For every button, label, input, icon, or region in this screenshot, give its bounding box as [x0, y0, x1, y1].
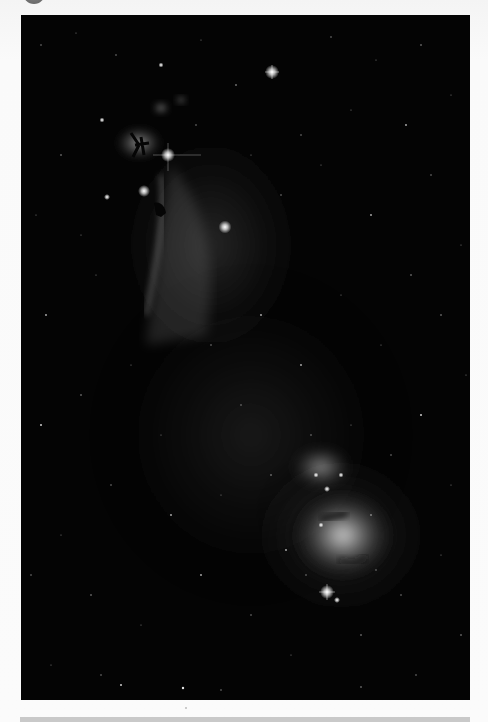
nebula-image	[21, 15, 470, 700]
bottom-toolbar	[20, 717, 470, 722]
avatar-icon[interactable]	[23, 0, 45, 4]
astrophotograph[interactable]	[21, 15, 470, 700]
image-viewer-page	[0, 0, 488, 722]
dust-dot	[185, 707, 187, 709]
